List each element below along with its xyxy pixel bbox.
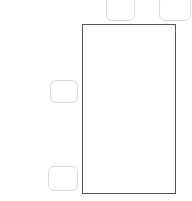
content-panel-label xyxy=(83,25,175,193)
content-panel[interactable] xyxy=(82,24,176,194)
top-left-button[interactable] xyxy=(106,0,135,21)
left-middle-button[interactable] xyxy=(50,80,78,103)
left-bottom-button[interactable] xyxy=(48,166,78,191)
top-right-button[interactable] xyxy=(159,0,191,21)
top-right-button-label xyxy=(160,0,190,20)
left-middle-button-label xyxy=(51,81,77,102)
left-bottom-button-label xyxy=(49,167,77,190)
wireframe-canvas xyxy=(0,0,192,201)
top-left-button-label xyxy=(107,0,134,20)
